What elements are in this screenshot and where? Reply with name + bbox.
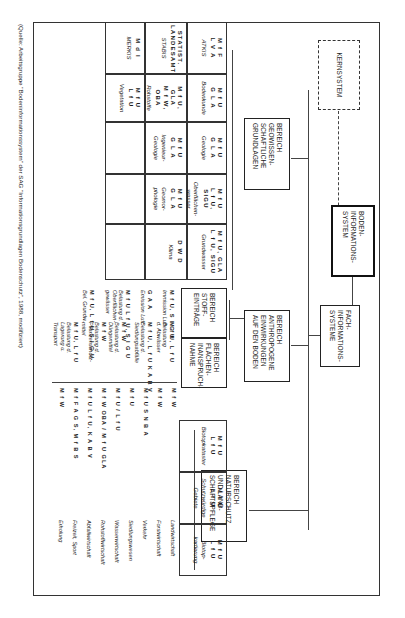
- list-item: M f U / L f U: [115, 388, 122, 432]
- bereich-stoff-box: Bereich Stoff-einträge: [181, 288, 227, 338]
- list-item-topic: Erholung: [58, 520, 65, 542]
- list-item: M f U, L f UBelastung d. Lagerung u. Tra…: [53, 322, 79, 363]
- list-item-topic: Forstwirtschaft: [156, 520, 163, 556]
- list-item: M f U, L f UBelastung d. Abwässer: [156, 322, 176, 363]
- list-item: M f U: [129, 388, 136, 407]
- geo-cell: M f U, GLA M f W, OBARohstoffe: [145, 74, 187, 122]
- natur-cell: M f U L f USchutzwürdige Gebiete: [179, 472, 227, 524]
- fachsysteme-box: Fach-informations-systeme: [320, 305, 360, 367]
- geo-cell: M f U L f U, SIGUOberflächen- wasser: [187, 174, 227, 224]
- list-item-topic: Verkehr: [142, 520, 149, 539]
- root-label: Boden-informations-system: [341, 211, 365, 271]
- bereich-anthro-box: Bereich anthropogene Einwirkungen auf de…: [244, 310, 290, 382]
- root-box: Boden-informations-system: [331, 205, 375, 277]
- fach-to-bus: [309, 335, 320, 336]
- rotated-document-page: Kernsystem Boden-informations-system Fac…: [0, 0, 405, 618]
- bereich-flaechen-box: Bereich Flächen-inanspruch-nahme: [181, 338, 227, 388]
- list-item-topic: Siedlungswesen: [128, 520, 135, 561]
- list-item: M f W: [59, 388, 66, 408]
- list-item-topic: Landwirtschaft: [170, 520, 177, 556]
- list-item: M f U L f U, K A B V: [87, 388, 94, 459]
- list-item-topic: Freizeit, Sport: [72, 520, 79, 555]
- list-item-topic: Rohstoffwirtschaft: [100, 520, 107, 564]
- geo-cell: [105, 174, 145, 224]
- list-item: M f WBelastung d. Pflanzenschutz- mittel: [81, 322, 107, 362]
- list-item: M f U S N B A: [143, 388, 150, 437]
- geo-cell: M f U G L AIngenieur- Geologie: [145, 122, 187, 174]
- natur-cell: M f U L f UBiotopkataster: [179, 420, 227, 472]
- fachsysteme-label: Fach-informations-systeme: [328, 310, 352, 362]
- geo-cell: [105, 122, 145, 174]
- list-item: M f W: [157, 388, 164, 408]
- geo-cell: M f U G L AGeologie: [187, 122, 227, 174]
- flaechen-bracket: [52, 382, 177, 383]
- list-item: M f WBelastung d. Düngemittel: [108, 322, 128, 353]
- geo-cell: [105, 224, 145, 280]
- geo-drop: [291, 158, 309, 159]
- main-bus: [308, 90, 309, 530]
- geo-cell: M f U L f UVegetation: [105, 74, 145, 122]
- list-item: G A AEmission Luft: [140, 290, 153, 324]
- list-item-topic: Wasserwirtschaft: [114, 520, 121, 562]
- geo-cell: M f U G L AGeomor- phologie: [145, 174, 187, 224]
- list-item: M f W: [171, 388, 178, 408]
- bereich-geo-box: Bereich geowissen-schaftliche Grundlagen: [244, 118, 290, 190]
- geo-cell: M f U, GLA L f U, SIGUGrundwasser: [187, 224, 227, 280]
- geo-cell: D W DKlima: [145, 224, 187, 280]
- geo-table-bus: [232, 50, 233, 290]
- anthro-drop: [291, 345, 309, 346]
- geo-cell: STATIST. LANDESAMTSTABIS: [145, 22, 187, 74]
- geo-cell: M d IMERKIS: [105, 22, 145, 74]
- geo-cell: M f U G L ABodenkunde: [187, 74, 227, 122]
- anthro-sub-bar: [229, 300, 230, 340]
- kernsystem-label: Kernsystem: [335, 52, 343, 97]
- list-item: M f F A G S, M f B S: [73, 388, 80, 459]
- kernsystem-box: Kernsystem: [318, 40, 360, 110]
- natur-cell: M f U L f UBiotop- kartierung: [179, 524, 227, 576]
- natur-drop: [249, 510, 309, 511]
- anthro-sub-connector: [230, 318, 244, 319]
- geo-cell: M f F L V AATKIS: [187, 22, 227, 74]
- source-caption: (Quelle: Arbeitsgruppe "Bodeninformation…: [18, 24, 25, 348]
- list-item-topic: Abfallwirtschaft: [86, 520, 93, 558]
- list-item: M f W OBA / M f U GLA: [101, 388, 108, 469]
